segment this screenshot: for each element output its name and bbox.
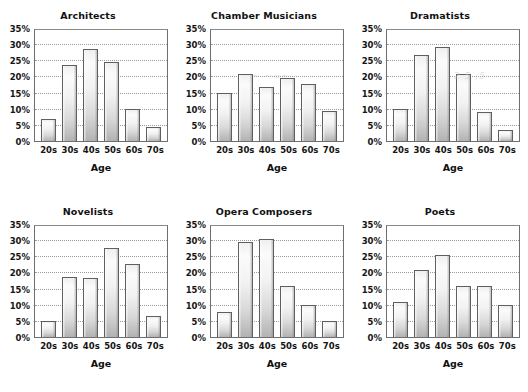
chart-panel-chamber-musicians: Chamber Musicians35%30%25%20%15%10%5%0%2… [176,0,352,196]
y-axis-tick-label: 25% [10,57,30,65]
x-axis-tick-label: 20s [216,341,231,351]
y-axis-tick-label: 30% [186,41,206,49]
x-axis-tick-label: 60s [477,341,492,351]
bar-30s [62,277,77,337]
bar-40s [83,278,98,337]
x-axis-tick-label: 60s [125,341,140,351]
x-axis-tick-label: 50s [104,341,119,351]
plot-wrapper: 35%30%25%20%15%10%5%0%20s30s40s50s60s70s… [180,29,346,149]
bar-40s [259,239,274,337]
chart-panel-dramatists: Dramatists35%30%25%20%15%10%5%0%20s30s40… [352,0,528,196]
plot-area [210,29,344,142]
x-axis-tick-label: 30s [61,145,76,155]
bar-20s [393,109,408,141]
x-axis-title: Age [210,358,344,369]
bars-layer [211,30,343,141]
bar-50s [456,74,471,141]
x-axis-tick-label: 40s [259,341,274,351]
y-axis-tick-label: 0% [192,334,206,342]
bar-20s [217,312,232,337]
x-axis-tick-label: 20s [40,341,55,351]
chart-title: Dramatists [352,0,528,22]
x-axis-tick-label: 30s [413,145,428,155]
y-axis-tick-label: 10% [362,302,382,310]
bar-70s [498,130,513,141]
y-axis-tick-label: 15% [362,90,382,98]
y-axis-tick-label: 0% [368,334,382,342]
y-axis-tick-label: 5% [368,318,382,326]
y-axis-tick-label: 25% [186,57,206,65]
chart-panel-novelists: Novelists35%30%25%20%15%10%5%0%20s30s40s… [0,196,176,392]
bars-layer [387,30,519,141]
x-axis-tick-labels: 20s30s40s50s60s70s [34,341,168,351]
y-axis-tick-label: 30% [362,41,382,49]
plot-wrapper: 35%30%25%20%15%10%5%0%20s30s40s50s60s70s… [4,225,170,345]
y-axis-tick-label: 20% [186,269,206,277]
bars-layer [211,226,343,337]
x-axis-tick-label: 40s [259,145,274,155]
bar-50s [104,248,119,337]
x-axis-tick-label: 70s [499,341,514,351]
y-axis-tick-label: 0% [368,138,382,146]
bar-70s [322,321,337,337]
y-axis-tick-label: 25% [362,253,382,261]
axis-baseline [35,141,167,142]
x-axis-tick-label: 40s [83,341,98,351]
y-axis-tick-label: 10% [186,106,206,114]
axis-baseline [387,141,519,142]
x-axis-tick-label: 20s [40,145,55,155]
plot-area [386,225,520,338]
y-axis-tick-label: 10% [186,302,206,310]
y-axis-tick-label: 25% [362,57,382,65]
y-axis-tick-label: 35% [10,25,30,33]
bar-20s [217,93,232,141]
x-axis-tick-label: 40s [83,145,98,155]
chart-title: Novelists [0,196,176,218]
y-axis-tick-label: 20% [10,73,30,81]
bar-20s [41,119,56,141]
x-axis-tick-label: 40s [435,145,450,155]
y-axis-tick-label: 10% [362,106,382,114]
y-axis-tick-label: 15% [362,286,382,294]
plot-area [386,29,520,142]
y-axis-tick-label: 5% [192,318,206,326]
y-axis-tick-label: 15% [10,286,30,294]
bar-20s [41,321,56,337]
x-axis-title: Age [34,358,168,369]
x-axis-tick-label: 30s [413,341,428,351]
y-axis-tick-label: 0% [16,334,30,342]
axis-baseline [211,141,343,142]
bar-20s [393,302,408,337]
bar-50s [104,62,119,141]
x-axis-title: Age [34,162,168,173]
bar-70s [498,305,513,337]
bar-30s [238,242,253,337]
bar-30s [414,270,429,337]
y-axis-tick-label: 5% [368,122,382,130]
y-axis-tick-label: 0% [192,138,206,146]
bar-40s [435,47,450,141]
x-axis-tick-label: 60s [125,145,140,155]
y-axis-tick-label: 25% [186,253,206,261]
chart-title: Chamber Musicians [176,0,352,22]
x-axis-tick-label: 20s [392,341,407,351]
axis-baseline [35,337,167,338]
y-axis-tick-label: 15% [186,90,206,98]
plot-wrapper: 35%30%25%20%15%10%5%0%20s30s40s50s60s70s… [356,29,522,149]
bar-50s [456,286,471,337]
bar-70s [322,111,337,141]
y-axis-tick-label: 35% [186,221,206,229]
bar-30s [62,65,77,141]
y-axis-tick-label: 5% [16,122,30,130]
bar-60s [125,109,140,141]
axis-baseline [387,337,519,338]
x-axis-tick-labels: 20s30s40s50s60s70s [210,341,344,351]
bar-60s [125,264,140,337]
plot-wrapper: 35%30%25%20%15%10%5%0%20s30s40s50s60s70s… [356,225,522,345]
x-axis-title: Age [386,358,520,369]
x-axis-tick-label: 50s [456,341,471,351]
bar-40s [259,87,274,141]
bars-layer [35,30,167,141]
y-axis-tick-label: 10% [10,106,30,114]
y-axis: 35%30%25%20%15%10%5%0% [4,225,33,338]
